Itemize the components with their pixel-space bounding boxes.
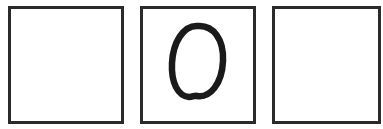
cell-empty-1[interactable]: [8, 6, 124, 124]
cell-content: [11, 9, 12, 10]
cell-o[interactable]: O: [140, 6, 256, 124]
cell-content: [275, 9, 276, 10]
handdrawn-o-icon: [143, 9, 253, 121]
cell-empty-3[interactable]: [272, 6, 381, 124]
